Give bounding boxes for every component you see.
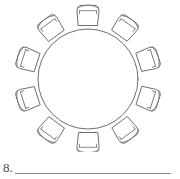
chair xyxy=(77,133,99,153)
diagram-canvas xyxy=(0,0,180,152)
table-circle xyxy=(38,29,138,129)
worksheet-item: 8. xyxy=(0,0,180,179)
chair-seat xyxy=(77,5,99,25)
round-table-diagram xyxy=(0,0,180,152)
answer-row: 8. xyxy=(0,152,180,179)
chair xyxy=(135,85,161,112)
chair xyxy=(14,85,40,112)
chair xyxy=(135,46,161,73)
chair xyxy=(14,46,40,73)
chair xyxy=(77,5,99,25)
answer-line[interactable] xyxy=(15,173,171,174)
question-number: 8. xyxy=(0,161,13,179)
chair-seat xyxy=(77,133,99,153)
